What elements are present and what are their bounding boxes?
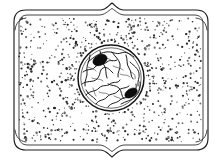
- stipple-dot: [70, 77, 72, 79]
- stipple-dot: [18, 56, 20, 58]
- stipple-dot: [194, 60, 196, 62]
- stipple-dot: [156, 25, 158, 27]
- stipple-dot: [54, 32, 55, 33]
- stipple-dot: [44, 134, 46, 136]
- stipple-dot: [105, 23, 107, 25]
- stipple-dot: [168, 78, 169, 79]
- stipple-dot: [159, 47, 161, 49]
- stipple-dot: [95, 110, 97, 112]
- stipple-dot: [48, 62, 50, 64]
- stipple-dot: [32, 91, 34, 93]
- stipple-dot: [74, 28, 76, 30]
- stipple-dot: [94, 23, 96, 25]
- stipple-dot: [149, 87, 150, 88]
- stipple-dot: [48, 87, 49, 88]
- stipple-dot: [113, 125, 115, 127]
- stipple-dot: [170, 95, 172, 97]
- stipple-dot: [84, 50, 86, 52]
- stipple-dot: [171, 118, 173, 120]
- stipple-dot: [109, 130, 111, 132]
- stipple-dot: [73, 24, 74, 25]
- stipple-dot: [188, 36, 190, 38]
- stipple-dot: [95, 117, 97, 119]
- stipple-dot: [143, 120, 145, 122]
- stipple-dot: [50, 139, 51, 140]
- stipple-dot: [86, 124, 87, 125]
- stipple-dot: [182, 86, 183, 87]
- stipple-dot: [67, 24, 69, 26]
- stipple-dot: [187, 85, 188, 86]
- stipple-dot: [132, 42, 134, 44]
- stipple-dot: [89, 47, 91, 49]
- stipple-dot: [149, 90, 151, 92]
- stipple-dot: [156, 83, 157, 84]
- stipple-dot: [178, 65, 179, 66]
- stipple-dot: [64, 111, 65, 112]
- stipple-dot: [132, 107, 133, 108]
- stipple-dot: [176, 87, 178, 89]
- stipple-dot: [149, 37, 151, 39]
- stipple-dot: [148, 48, 149, 49]
- stipple-dot: [157, 21, 158, 22]
- stipple-dot: [163, 85, 164, 86]
- stipple-dot: [147, 95, 149, 97]
- stipple-dot: [46, 40, 47, 41]
- stipple-dot: [63, 24, 64, 25]
- cell-diagram-figure: [0, 0, 224, 160]
- stipple-dot: [61, 129, 63, 131]
- stipple-dot: [22, 109, 23, 110]
- stipple-dot: [196, 89, 198, 91]
- stipple-dot: [177, 85, 179, 87]
- stipple-dot: [159, 105, 161, 107]
- stipple-dot: [26, 71, 27, 72]
- stipple-dot: [65, 101, 67, 103]
- stipple-dot: [108, 114, 110, 116]
- stipple-dot: [50, 129, 52, 131]
- stipple-dot: [196, 50, 198, 52]
- stipple-dot: [72, 38, 74, 40]
- stipple-dot: [153, 75, 155, 77]
- stipple-dot: [117, 32, 118, 33]
- stipple-dot: [20, 94, 22, 96]
- stipple-dot: [31, 59, 32, 60]
- stipple-dot: [63, 57, 65, 59]
- stipple-dot: [90, 26, 92, 28]
- stipple-dot: [139, 21, 141, 23]
- stipple-dot: [199, 56, 201, 58]
- stipple-dot: [171, 79, 172, 80]
- stipple-dot: [23, 132, 25, 134]
- stipple-dot: [47, 127, 49, 129]
- stipple-dot: [34, 117, 35, 118]
- stipple-dot: [149, 139, 151, 141]
- stipple-dot: [99, 32, 101, 34]
- stipple-dot: [137, 39, 138, 40]
- stipple-dot: [146, 26, 148, 28]
- stipple-dot: [23, 122, 24, 123]
- stipple-dot: [140, 103, 142, 105]
- stipple-dot: [29, 24, 31, 26]
- stipple-dot: [66, 26, 67, 27]
- stipple-dot: [51, 119, 53, 121]
- stipple-dot: [35, 63, 36, 64]
- stipple-dot: [149, 69, 151, 71]
- stipple-dot: [40, 139, 42, 141]
- stipple-dot: [136, 103, 138, 105]
- stipple-dot: [33, 97, 34, 98]
- stipple-dot: [119, 130, 120, 131]
- stipple-dot: [132, 47, 134, 49]
- stipple-dot: [158, 126, 160, 128]
- stipple-dot: [61, 115, 63, 117]
- stipple-dot: [192, 129, 194, 131]
- stipple-dot: [96, 26, 97, 27]
- stipple-dot: [170, 103, 172, 105]
- stipple-dot: [197, 51, 199, 53]
- stipple-dot: [160, 129, 162, 131]
- stipple-dot: [94, 128, 96, 130]
- stipple-dot: [181, 46, 183, 48]
- stipple-dot: [105, 113, 107, 115]
- stipple-dot: [146, 75, 147, 76]
- stipple-dot: [107, 125, 108, 126]
- stipple-dot: [75, 61, 77, 63]
- stipple-dot: [46, 85, 48, 87]
- stipple-dot: [162, 114, 163, 115]
